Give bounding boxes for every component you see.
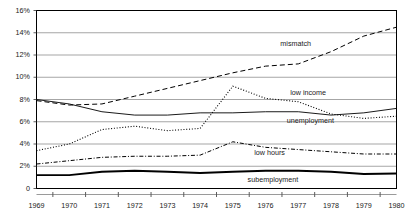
y-tick-label: 4% <box>2 140 30 147</box>
y-tick-label: 16% <box>2 7 30 14</box>
chart-plot-svg <box>0 0 411 220</box>
y-tick-label: 2% <box>2 162 30 169</box>
series-line-subemployment <box>37 171 397 175</box>
series-label-low-hours: low hours <box>254 149 285 156</box>
x-tick-label: 1970 <box>54 202 84 209</box>
y-tick-label: 8% <box>2 96 30 103</box>
chart-container: 02%4%6%8%10%12%14%16% 196919701971197219… <box>0 0 411 220</box>
series-label-mismatch: mismatch <box>280 40 311 47</box>
x-tick-label: 1976 <box>251 202 281 209</box>
x-tick-label: 1971 <box>87 202 117 209</box>
x-tick-label: 1978 <box>316 202 346 209</box>
x-axis-ticks <box>37 192 397 197</box>
x-tick-label: 1974 <box>185 202 215 209</box>
x-tick-label: 1975 <box>218 202 248 209</box>
x-tick-label: 1973 <box>152 202 182 209</box>
series-label-subemployment: subemployment <box>248 176 299 183</box>
series-line-mismatch <box>37 27 397 105</box>
series-label-unemployment: unemployment <box>287 117 334 124</box>
gridlines <box>37 33 397 167</box>
y-tick-label: 14% <box>2 29 30 36</box>
series-line-low-income <box>37 100 397 116</box>
y-tick-label: 6% <box>2 118 30 125</box>
x-tick-label: 1972 <box>120 202 150 209</box>
x-tick-label: 1977 <box>283 202 313 209</box>
series-label-low-income: low income <box>290 89 326 96</box>
y-tick-label: 10% <box>2 73 30 80</box>
series-line-unemployment <box>37 86 397 151</box>
y-tick-label: 0 <box>2 185 30 192</box>
x-tick-label: 1980 <box>382 202 411 209</box>
series-lines <box>37 27 397 175</box>
series-line-low-hours <box>37 142 397 164</box>
x-tick-label: 1969 <box>22 202 52 209</box>
x-tick-label: 1979 <box>349 202 379 209</box>
y-tick-label: 12% <box>2 51 30 58</box>
